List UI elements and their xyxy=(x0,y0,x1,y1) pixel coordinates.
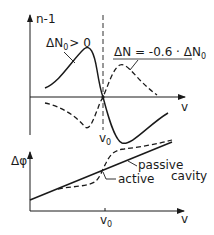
crossing-point xyxy=(101,95,104,98)
absorption-label-leader xyxy=(130,60,138,70)
gain-label-leader xyxy=(64,52,75,63)
bottom-x-axis-label: v xyxy=(181,212,188,226)
bottom-panel: Δφ v v0 passive cavity active xyxy=(11,140,207,229)
active-label: active xyxy=(118,172,154,186)
top-x-axis-label: v xyxy=(181,100,188,114)
top-y-axis-label: n-1 xyxy=(36,12,56,26)
center-frequency-label: v0 xyxy=(99,131,111,147)
top-panel: n-1 v v0 ΔN0> 0 ΔN = -0.6 · ΔN0 xyxy=(30,12,206,147)
v0-tick-label: v0 xyxy=(100,213,112,229)
dispersion-diagram: n-1 v v0 ΔN0> 0 ΔN = -0.6 · ΔN0 Δφ v xyxy=(0,0,214,235)
gain-dispersion-curve xyxy=(45,48,168,144)
active-label-leader xyxy=(103,172,116,179)
bottom-y-axis-label: Δφ xyxy=(11,154,27,168)
gain-curve-label: ΔN0> 0 xyxy=(46,36,91,52)
cavity-label: cavity xyxy=(171,169,207,183)
passive-label-leader xyxy=(128,161,137,166)
